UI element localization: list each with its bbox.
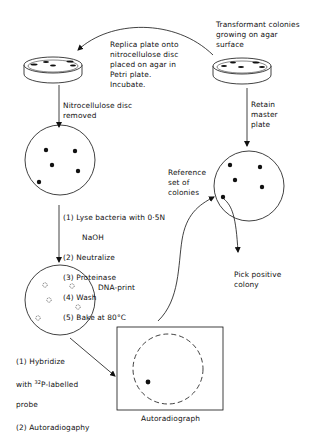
hyb-step-1c: probe — [16, 400, 90, 410]
label-dna-print: DNA-print — [98, 283, 135, 293]
hyb-step-1b: with 32P-labelled — [16, 377, 90, 390]
label-reference: Reference set of colonies — [168, 168, 206, 198]
label-pick-positive: Pick positive colony — [234, 270, 281, 290]
label-disc-removed: Nitrocellulose disc removed — [63, 101, 132, 121]
hyb-with: with — [16, 380, 35, 389]
label-hybridize-steps: (1) Hybridize with 32P-labelled probe (2… — [16, 347, 90, 440]
step-1b: NaOH — [63, 233, 165, 243]
hyb-probe-label: P-labelled — [41, 380, 78, 389]
hyb-step-2: (2) Autoradiogaphy — [16, 423, 90, 433]
step-4: (4) Wash — [63, 293, 165, 303]
step-5: (5) Bake at 80°C — [63, 313, 165, 323]
step-3: (3) Proteinase — [63, 273, 165, 283]
label-retain: Retain master plate — [251, 100, 278, 130]
hyb-step-1: (1) Hybridize — [16, 357, 90, 367]
reference-arrow — [158, 197, 214, 321]
label-transformant: Transformant colonies growing on agar su… — [216, 20, 300, 50]
reference-plate — [214, 151, 284, 221]
label-processing-steps: (1) Lyse bacteria with 0·5N NaOH (2) Neu… — [63, 203, 165, 333]
step-2: (2) Neutralize — [63, 253, 165, 263]
label-replica: Replica plate onto nitrocellulose disc p… — [110, 40, 179, 90]
autoradiograph-film — [117, 327, 223, 410]
pick-arrow — [224, 199, 238, 252]
step-1: (1) Lyse bacteria with 0·5N — [63, 213, 165, 223]
replica-petri-dish — [24, 57, 82, 83]
master-petri-dish — [213, 58, 271, 84]
nitrocellulose-disc — [25, 125, 95, 195]
label-autoradiograph: Autoradiograph — [141, 414, 200, 424]
